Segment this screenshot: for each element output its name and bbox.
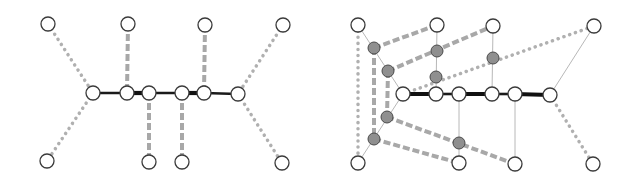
- graph-node: [452, 156, 466, 170]
- graph-node: [142, 155, 156, 169]
- graph-node: [198, 18, 212, 32]
- graph-canvas: [0, 0, 636, 184]
- graph-node: [485, 87, 499, 101]
- graph-node: [430, 18, 444, 32]
- aux-node: [368, 133, 380, 145]
- aux-node: [431, 45, 443, 57]
- graph-node: [121, 17, 135, 31]
- graph-node: [351, 156, 365, 170]
- graph-node: [86, 86, 100, 100]
- aux-node: [382, 65, 394, 77]
- aux-node: [381, 111, 393, 123]
- graph-node: [197, 86, 211, 100]
- graph-node: [40, 154, 54, 168]
- aux-node: [430, 71, 442, 83]
- graph-node: [586, 157, 600, 171]
- graph-node: [120, 86, 134, 100]
- graph-node: [276, 18, 290, 32]
- aux-node: [368, 42, 380, 54]
- graph-node: [486, 19, 500, 33]
- graph-node: [142, 86, 156, 100]
- graph-node: [231, 87, 245, 101]
- aux-node: [487, 52, 499, 64]
- graph-node: [396, 87, 410, 101]
- graph-node: [587, 19, 601, 33]
- graph-node: [175, 86, 189, 100]
- graph-node: [452, 87, 466, 101]
- graph-node: [508, 87, 522, 101]
- aux-node: [453, 137, 465, 149]
- graph-node: [275, 156, 289, 170]
- graph-node: [351, 18, 365, 32]
- graph-node: [175, 155, 189, 169]
- graph-node: [543, 88, 557, 102]
- graph-node: [41, 17, 55, 31]
- graph-node: [508, 157, 522, 171]
- graph-node: [429, 87, 443, 101]
